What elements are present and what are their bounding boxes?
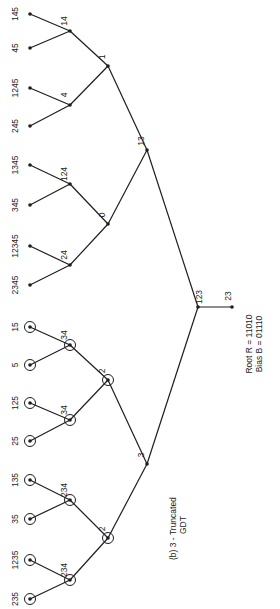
level1-label: 234 xyxy=(59,483,69,497)
root-node xyxy=(196,305,200,309)
node-dot-icon xyxy=(28,46,32,50)
node-dot-icon xyxy=(106,378,110,382)
node-dot-icon xyxy=(68,103,72,107)
leaf-node xyxy=(25,594,36,605)
leaf-node xyxy=(25,436,36,447)
leaf-label: 12345 xyxy=(10,234,20,258)
node-dot-icon xyxy=(68,343,72,347)
level2-node xyxy=(103,533,114,544)
node-dot-icon xyxy=(28,401,32,405)
leaf-label: 25 xyxy=(10,436,20,446)
edge-leaf-to-level1 xyxy=(30,345,70,365)
node-dot-icon xyxy=(28,283,32,287)
node-dot-icon xyxy=(28,517,32,521)
root-bias-note: Root R = 11010 Bias B = 01110 xyxy=(244,314,264,373)
caption-line-1: (b) 3 - Truncated xyxy=(168,497,178,560)
node-dot-icon xyxy=(106,222,110,226)
node-dot-icon xyxy=(28,203,32,207)
tree-nodes xyxy=(25,12,234,604)
level1-node xyxy=(68,263,72,267)
level1-label: 34 xyxy=(59,405,69,415)
leaf-node xyxy=(25,555,36,566)
level2-node xyxy=(106,64,110,68)
node-dot-icon xyxy=(28,558,32,562)
level1-label: 14 xyxy=(59,16,69,26)
edge-leaf-to-level1 xyxy=(30,105,70,126)
level1-node xyxy=(68,29,72,33)
truncated-gdt-tree-diagram: 1454512452451345345123452345155125251353… xyxy=(0,0,280,609)
edge-leaf-to-level1 xyxy=(30,31,70,48)
edge-leaf-to-level1 xyxy=(30,184,70,205)
node-dot-icon xyxy=(145,462,149,466)
level3-label: 3 xyxy=(136,452,146,457)
leaf-label: 245 xyxy=(10,119,20,133)
level1-label: 124 xyxy=(59,167,69,181)
edge-level2-to-level3 xyxy=(108,464,147,538)
edge-level2-to-level3 xyxy=(108,380,147,464)
root-label: 123 xyxy=(194,290,204,304)
leaf-label: 15 xyxy=(10,322,20,332)
node-dot-icon xyxy=(196,305,200,309)
edge-level3-to-root xyxy=(147,307,198,464)
level1-node xyxy=(68,182,72,186)
node-dot-icon xyxy=(68,418,72,422)
leaf-node xyxy=(25,514,36,525)
leaf-label: 145 xyxy=(10,7,20,21)
leaf-label: 125 xyxy=(10,396,20,410)
level2-node xyxy=(106,222,110,226)
leaf-node xyxy=(25,322,36,333)
figure-caption: (b) 3 - Truncated GDT xyxy=(168,497,188,560)
edge-level1-to-level2 xyxy=(70,66,108,105)
node-dot-icon xyxy=(106,64,110,68)
level2-node xyxy=(103,375,114,386)
node-dot-icon xyxy=(106,536,110,540)
edge-leaf-to-level1 xyxy=(30,420,70,441)
level3-label: 13 xyxy=(136,136,146,146)
level2-label: 0 xyxy=(97,212,107,217)
leaf-label: 1245 xyxy=(10,78,20,97)
level1-label: 24 xyxy=(59,250,69,260)
edge-level1-to-level2 xyxy=(70,224,108,265)
root-extra-leaf-node xyxy=(230,305,234,309)
leaf-node xyxy=(28,86,32,90)
leaf-node xyxy=(25,360,36,371)
leaf-node xyxy=(28,12,32,16)
leaf-label: 35 xyxy=(10,514,20,524)
node-dot-icon xyxy=(28,597,32,601)
edge-level1-to-level2 xyxy=(70,380,108,420)
level2-label: 1 xyxy=(97,54,107,59)
leaf-node xyxy=(28,203,32,207)
leaf-node xyxy=(28,244,32,248)
leaf-node xyxy=(28,163,32,167)
leaf-label: 235 xyxy=(10,592,20,606)
edge-leaf-to-level1 xyxy=(30,500,70,519)
level2-label: 2 xyxy=(97,368,107,373)
node-dot-icon xyxy=(28,439,32,443)
edge-leaf-to-level1 xyxy=(30,265,70,285)
level1-node xyxy=(65,415,76,426)
node-dot-icon xyxy=(68,578,72,582)
edge-level3-to-root xyxy=(147,150,198,307)
node-dot-icon xyxy=(28,163,32,167)
edge-level1-to-level2 xyxy=(70,31,108,66)
edge-level1-to-level2 xyxy=(70,345,108,380)
leaf-label: 345 xyxy=(10,198,20,212)
level1-label: 234 xyxy=(59,563,69,577)
leaf-node xyxy=(28,124,32,128)
leaf-node xyxy=(28,283,32,287)
node-dot-icon xyxy=(68,263,72,267)
node-dot-icon xyxy=(28,124,32,128)
leaf-label: 45 xyxy=(10,43,20,53)
node-dot-icon xyxy=(28,86,32,90)
level3-node xyxy=(145,462,149,466)
root-value-text: Root R = 11010 xyxy=(244,314,254,373)
edge-level2-to-level3 xyxy=(108,150,147,224)
node-dot-icon xyxy=(68,182,72,186)
node-dot-icon xyxy=(145,148,149,152)
leaf-label: 2345 xyxy=(10,275,20,294)
level1-node xyxy=(68,103,72,107)
edge-leaf-to-level1 xyxy=(30,580,70,599)
node-dot-icon xyxy=(68,498,72,502)
node-dot-icon xyxy=(28,478,32,482)
level3-node xyxy=(145,148,149,152)
